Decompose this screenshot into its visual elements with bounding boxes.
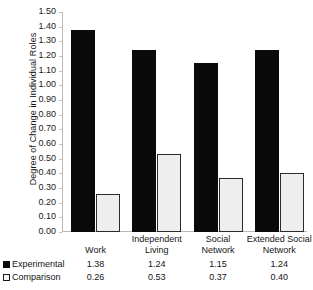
- data-cell-comparison-1: 0.53: [127, 272, 187, 283]
- bar-experimental-0: [71, 30, 95, 232]
- y-tick-mark: [59, 159, 62, 160]
- y-tick-label: 0.20: [38, 197, 56, 207]
- x-category-label-line: Extended Social: [236, 234, 313, 245]
- y-tick-mark: [59, 129, 62, 130]
- bar-comparison-3: [280, 173, 304, 232]
- legend-label-experimental: Experimental: [12, 259, 65, 270]
- legend-item-experimental: Experimental: [3, 258, 65, 271]
- legend-swatch-comparison-icon: [3, 274, 10, 281]
- y-tick-label: 1.50: [38, 6, 56, 16]
- y-tick-label: 0.60: [38, 138, 56, 148]
- data-cell-experimental-0: 1.38: [66, 259, 126, 270]
- y-tick-label: 1.20: [38, 50, 56, 60]
- data-cell-experimental-3: 1.24: [249, 259, 309, 270]
- y-tick-mark: [59, 203, 62, 204]
- y-tick-label: 0.40: [38, 167, 56, 177]
- bar-chart: Degree of Change in Individual Roles 0.0…: [0, 0, 313, 290]
- y-tick-label: 0.50: [38, 153, 56, 163]
- y-tick-mark: [59, 41, 62, 42]
- y-tick-label: 0.90: [38, 94, 56, 104]
- data-cell-experimental-2: 1.15: [188, 259, 248, 270]
- data-cell-comparison-2: 0.37: [188, 272, 248, 283]
- y-tick-mark: [59, 217, 62, 218]
- y-tick-label: 0.30: [38, 182, 56, 192]
- y-tick-label: 1.00: [38, 79, 56, 89]
- y-tick-mark: [59, 115, 62, 116]
- y-tick-mark: [59, 85, 62, 86]
- y-tick-mark: [59, 71, 62, 72]
- legend-item-comparison: Comparison: [3, 271, 61, 284]
- legend-data-table: Experimental 1.381.241.151.24 Comparison…: [3, 258, 313, 288]
- x-category-label-line: Network: [236, 245, 313, 256]
- y-tick-mark: [59, 188, 62, 189]
- y-tick-mark: [59, 144, 62, 145]
- y-tick-mark: [59, 100, 62, 101]
- y-tick-label: 1.40: [38, 21, 56, 31]
- y-tick-mark: [59, 56, 62, 57]
- legend-swatch-experimental-icon: [3, 261, 10, 268]
- data-row-experimental: Experimental 1.381.241.151.24: [3, 258, 313, 271]
- plot-area: 0.000.100.200.300.400.500.600.700.800.90…: [62, 12, 307, 232]
- bar-experimental-1: [132, 50, 156, 232]
- data-cell-comparison-3: 0.40: [249, 272, 309, 283]
- legend-label-comparison: Comparison: [12, 272, 61, 283]
- bar-comparison-1: [157, 154, 181, 232]
- bar-comparison-2: [219, 178, 243, 232]
- y-tick-label: 1.30: [38, 35, 56, 45]
- y-tick-label: 0.10: [38, 211, 56, 221]
- data-cell-experimental-1: 1.24: [127, 259, 187, 270]
- bar-experimental-2: [194, 63, 218, 232]
- y-tick-label: 0.80: [38, 109, 56, 119]
- y-tick-label: 1.10: [38, 65, 56, 75]
- data-row-comparison: Comparison 0.260.530.370.40: [3, 271, 313, 284]
- y-tick-label: 0.70: [38, 123, 56, 133]
- y-tick-label: 0.00: [38, 226, 56, 236]
- x-category-label-3: Extended SocialNetwork: [236, 234, 313, 255]
- bar-comparison-0: [96, 194, 120, 232]
- y-tick-mark: [59, 173, 62, 174]
- y-tick-mark: [59, 12, 62, 13]
- y-axis-line: [62, 12, 63, 232]
- bar-experimental-3: [255, 50, 279, 232]
- x-axis-category-labels: WorkIndependentLivingSocialNetworkExtend…: [62, 234, 313, 258]
- y-axis-title: Degree of Change in Individual Roles: [28, 4, 38, 214]
- data-cell-comparison-0: 0.26: [66, 272, 126, 283]
- y-tick-mark: [59, 232, 62, 233]
- y-tick-mark: [59, 27, 62, 28]
